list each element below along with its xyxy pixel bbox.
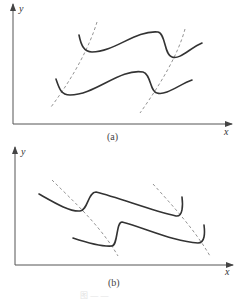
figure-caption: 图 — — xyxy=(80,291,108,300)
y-axis-label-a: y xyxy=(18,3,24,14)
dashed-line-b-right xyxy=(153,184,210,256)
solid-curve-b-lower xyxy=(73,222,204,246)
x-axis-label-a: x xyxy=(223,126,229,137)
solid-curve-a-upper xyxy=(79,32,202,58)
panel-b: y x (b) xyxy=(15,146,233,289)
figure-canvas: y x (a) y x (b) 图 — — xyxy=(0,0,237,301)
y-axis-label-b: y xyxy=(20,146,26,157)
solid-curve-a-lower xyxy=(56,72,192,95)
solid-curve-b-upper xyxy=(39,192,182,216)
caption-b: (b) xyxy=(108,277,120,289)
dashed-line-a-right xyxy=(140,29,185,113)
dashed-line-b-left xyxy=(52,180,118,256)
x-axis-label-b: x xyxy=(224,266,230,277)
panel-a: y x (a) xyxy=(13,3,232,143)
caption-a: (a) xyxy=(107,131,118,143)
